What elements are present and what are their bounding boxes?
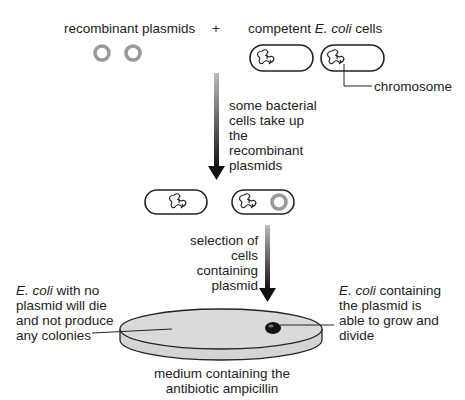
transformed-cells xyxy=(145,190,294,214)
step2-label: selection ofcellscontainingplasmid xyxy=(190,233,258,293)
plus-sign: + xyxy=(212,21,220,36)
recombinant-plasmids xyxy=(95,46,140,60)
medium-label: medium containing theantibiotic ampicill… xyxy=(152,366,292,396)
competent-cells xyxy=(250,45,384,86)
with-plasmid-note: E. coli containing the plasmid isable to… xyxy=(339,283,441,343)
competent-cells-label: competent E. coli cells xyxy=(248,21,382,36)
recombinant-plasmids-label: recombinant plasmids xyxy=(64,21,195,36)
step1-label: some bacterialcells take uptherecombinan… xyxy=(229,98,317,173)
arrow-selection xyxy=(259,225,276,302)
chromosome-label: chromosome xyxy=(374,79,452,94)
no-plasmid-note: E. coli with no plasmid will dieand not … xyxy=(16,283,114,343)
arrow-uptake xyxy=(208,73,225,180)
petri-dish xyxy=(120,309,322,360)
